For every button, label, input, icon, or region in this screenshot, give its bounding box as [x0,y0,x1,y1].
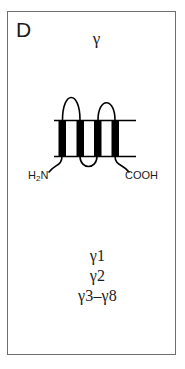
n-terminus-label-n: N [40,169,48,181]
n-terminus-label: H2N [28,170,48,183]
n-terminus-label-h: H [28,169,36,181]
legend-item-gamma3-gamma8: γ3–γ8 [10,286,185,306]
legend-item-gamma2: γ2 [10,266,185,286]
figure-panel-d: D γ H2N COOH γ1 γ2 γ3–γ8 [0,0,185,369]
c-terminus-label: COOH [125,170,158,181]
isoform-legend: γ1 γ2 γ3–γ8 [0,246,185,306]
page-title: γ [0,30,185,47]
legend-item-gamma1: γ1 [10,246,185,266]
